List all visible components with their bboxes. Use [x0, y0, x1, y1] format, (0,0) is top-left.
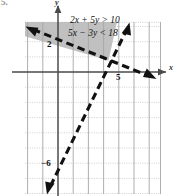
coordinate-plane-svg [0, 0, 175, 196]
inequality-graph-figure: 5. [0, 0, 175, 196]
y-axis-arrowhead [55, 5, 62, 13]
shaded-solution-region [25, 0, 161, 61]
arrowhead-lower-right [143, 69, 157, 79]
arrowhead-lower-left [45, 182, 54, 195]
x-axis-arrowhead [158, 69, 166, 76]
